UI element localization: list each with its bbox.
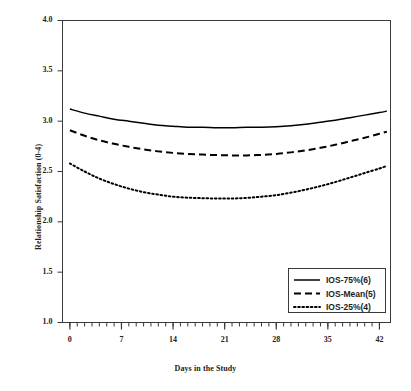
x-tick-label: 28 <box>263 335 289 344</box>
x-tick-label: 35 <box>315 335 341 344</box>
legend-label-1: IOS-Mean(5) <box>326 289 376 299</box>
y-tick-label: 1.0 <box>27 317 53 326</box>
series-line-2 <box>70 163 387 198</box>
y-tick-label: 2.0 <box>27 216 53 225</box>
y-tick-label: 2.5 <box>27 166 53 175</box>
data-series-group <box>70 109 387 198</box>
legend-label-2: IOS-25%(4) <box>326 302 371 312</box>
y-tick-label: 3.0 <box>27 116 53 125</box>
x-tick-label: 42 <box>366 335 392 344</box>
chart-figure: Relationship Satisfaction (0-4) Days in … <box>0 0 411 391</box>
x-tick-label: 14 <box>160 335 186 344</box>
plot-area: IOS-75%(6)IOS-Mean(5)IOS-25%(4) <box>0 0 411 391</box>
x-axis-major-ticks <box>70 323 380 330</box>
chart-legend: IOS-75%(6)IOS-Mean(5)IOS-25%(4) <box>289 269 386 313</box>
x-tick-label: 21 <box>212 335 238 344</box>
series-line-1 <box>70 130 387 155</box>
x-tick-label: 7 <box>108 335 134 344</box>
y-tick-label: 4.0 <box>27 15 53 24</box>
y-axis-ticks <box>58 21 63 323</box>
y-tick-label: 1.5 <box>27 267 53 276</box>
y-tick-label: 3.5 <box>27 65 53 74</box>
x-tick-label: 0 <box>57 335 83 344</box>
series-line-0 <box>70 109 387 128</box>
legend-label-0: IOS-75%(6) <box>326 275 371 285</box>
